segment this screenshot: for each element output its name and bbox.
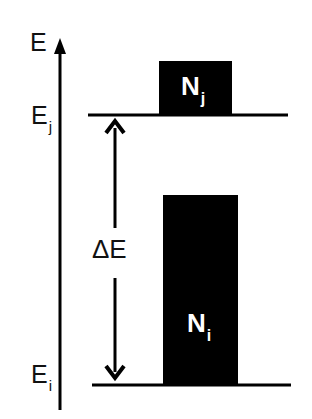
population-bar-upper: Nj bbox=[159, 61, 232, 115]
level-label-lower-main: E bbox=[31, 360, 48, 388]
level-label-upper: Ej bbox=[31, 103, 52, 128]
gap-label: ΔE bbox=[92, 236, 127, 262]
population-label-upper-sub: j bbox=[201, 90, 205, 107]
diagram-lines bbox=[0, 0, 312, 419]
population-label-lower-sub: i bbox=[207, 327, 211, 344]
population-label-lower: Ni bbox=[187, 310, 211, 336]
gap-label-text: ΔE bbox=[92, 234, 127, 264]
population-bar-lower: Ni bbox=[163, 195, 238, 385]
axis-arrowhead-icon bbox=[54, 38, 66, 54]
level-label-upper-sub: j bbox=[49, 118, 52, 135]
population-label-lower-main: N bbox=[187, 308, 206, 338]
axis-label-text: E bbox=[30, 28, 47, 56]
population-label-upper: Nj bbox=[181, 73, 205, 99]
level-label-upper-main: E bbox=[31, 101, 48, 129]
axis-label: E bbox=[30, 30, 47, 55]
population-label-upper-main: N bbox=[181, 71, 200, 101]
level-label-lower-sub: i bbox=[49, 377, 52, 394]
level-label-lower: Ei bbox=[31, 362, 52, 387]
